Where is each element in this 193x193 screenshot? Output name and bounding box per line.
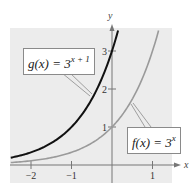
chart-plot: xy−2−11123	[0, 0, 193, 193]
g-label-exp: x + 1	[71, 54, 90, 64]
x-axis-label: x	[183, 159, 189, 170]
g-label-base: g(x) = 3	[28, 56, 71, 71]
y-tick-label: 3	[102, 46, 107, 57]
x-tick-label: −2	[26, 170, 37, 181]
x-tick-label: −1	[66, 170, 77, 181]
f-label-exp: x	[172, 133, 176, 143]
f-label-base: f(x) = 3	[132, 135, 172, 150]
legend-label-g: g(x) = 3x + 1	[23, 48, 95, 75]
y-tick-label: 1	[102, 122, 107, 133]
x-axis-arrow-icon	[174, 163, 181, 168]
x-tick-label: 1	[150, 170, 155, 181]
y-axis-label: y	[107, 10, 113, 21]
y-tick-label: 2	[102, 84, 107, 95]
legend-label-f: f(x) = 3x	[127, 127, 181, 154]
y-axis-arrow-icon	[110, 24, 115, 31]
